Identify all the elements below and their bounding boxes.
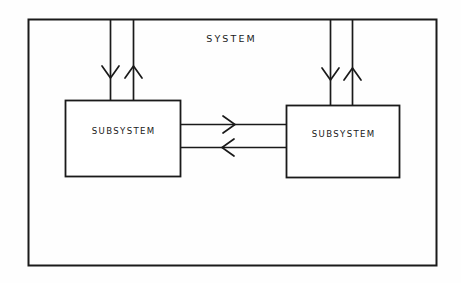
subsystem-right-box [287,106,400,178]
system-block-diagram: SYSTEM SUBSYSTEM SUBSYSTEM [0,0,461,283]
connector-output-left [125,20,142,100]
connector-link-left-to-right [181,116,287,133]
subsystem-left-label: SUBSYSTEM [65,126,181,136]
system-title-label: SYSTEM [0,33,461,44]
connector-link-right-to-left [181,139,287,156]
subsystem-right-label: SUBSYSTEM [286,129,400,139]
subsystem-left-box [66,101,181,177]
connector-input-left [102,20,119,100]
